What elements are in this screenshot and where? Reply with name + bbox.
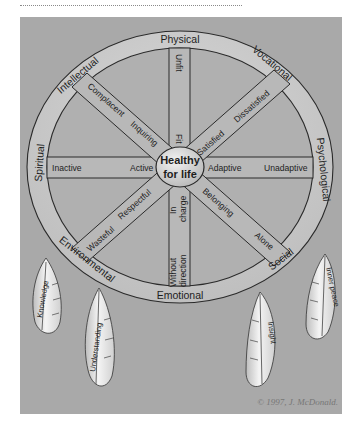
feather-understanding: Understanding [85, 288, 114, 386]
spoke-label-charge: charge [178, 196, 188, 222]
ring-label-physical: Physical [160, 33, 199, 45]
medicine-wheel-diagram: Knowledge Understanding Insight Inner pe… [0, 0, 355, 434]
feather-insight: Insight [246, 292, 278, 387]
copyright-notice: © 1997, J. McDonald. [257, 397, 338, 407]
feather-inner-peace: Inner peace [306, 254, 341, 339]
spoke-label-unadaptive: Unadaptive [264, 163, 308, 173]
feather-knowledge: Knowledge [33, 258, 61, 333]
hub-label-line1: Healthy [160, 154, 201, 166]
spoke-label-unfit: Unfit [174, 54, 184, 72]
spoke-label-inactive: Inactive [52, 163, 82, 173]
spoke-label-adaptive: Adaptive [208, 163, 242, 173]
spoke-label-fit: Fit [174, 134, 184, 144]
spoke-label-in: In [168, 207, 178, 214]
spoke-label-without: Without [168, 257, 178, 287]
spoke-label-active: Active [130, 163, 154, 173]
hub-label-line2: for life [163, 168, 197, 180]
ring-label-emotional: Emotional [157, 289, 204, 301]
spoke-label-direction: direction [178, 254, 188, 287]
